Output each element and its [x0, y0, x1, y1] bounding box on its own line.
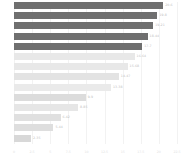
bar-row: 13.38 [0, 83, 185, 93]
bar-value-label: 6.42 [63, 114, 71, 121]
x-axis: 02.557.51012.51517.52022.5 [0, 146, 185, 164]
bar-row: 8.85 [0, 103, 185, 113]
bar[interactable] [14, 43, 142, 50]
bar[interactable] [14, 94, 86, 101]
bar-value-label: 16.64 [137, 53, 147, 60]
bar-row: 18.44 [0, 32, 185, 42]
bar[interactable] [14, 33, 148, 40]
bar-value-label: 19.8 [159, 12, 167, 19]
x-tick-label: 5 [49, 149, 51, 155]
bar-value-label: 18.44 [150, 33, 160, 40]
x-tick-label: 7.5 [66, 149, 71, 155]
x-tick-label: 17.5 [137, 149, 144, 155]
bar-row: 19.21 [0, 21, 185, 31]
bar[interactable] [14, 22, 153, 29]
bar-value-label: 8.85 [80, 104, 88, 111]
bar-row: 16.64 [0, 52, 185, 62]
bar-value-label: 14.47 [121, 73, 131, 80]
x-tick-label: 10 [84, 149, 88, 155]
bar[interactable] [14, 12, 157, 19]
bar[interactable] [14, 114, 61, 121]
x-tick-label: 0 [13, 149, 15, 155]
bar-row: 6.42 [0, 113, 185, 123]
bar-row: 2.35 [0, 134, 185, 144]
bar[interactable] [14, 104, 78, 111]
x-tick-label: 15 [121, 149, 125, 155]
bar[interactable] [14, 84, 111, 91]
bar-row: 19.8 [0, 11, 185, 21]
bar-value-label: 17.7 [144, 43, 152, 50]
x-tick-label: 22.5 [173, 149, 180, 155]
bar[interactable] [14, 135, 31, 142]
bar-row: 9.9 [0, 93, 185, 103]
bar-series: 20.619.819.2118.4417.716.6415.6814.4713.… [0, 0, 185, 146]
bar-value-label: 15.68 [130, 63, 140, 70]
bar-row: 17.7 [0, 42, 185, 52]
bar-value-label: 20.6 [165, 2, 173, 9]
bar-value-label: 5.44 [55, 124, 63, 131]
x-tick-label: 12.5 [101, 149, 108, 155]
bar[interactable] [14, 2, 163, 9]
bar-row: 5.44 [0, 123, 185, 133]
bar[interactable] [14, 63, 128, 70]
bar-value-label: 2.35 [33, 135, 41, 142]
bar-value-label: 13.38 [113, 84, 123, 91]
bar[interactable] [14, 53, 135, 60]
bar-row: 20.6 [0, 1, 185, 11]
bar[interactable] [14, 73, 119, 80]
bar[interactable] [14, 124, 53, 131]
plot-area: 20.619.819.2118.4417.716.6415.6814.4713.… [0, 0, 185, 146]
bar-value-label: 19.21 [155, 22, 165, 29]
bar-row: 15.68 [0, 62, 185, 72]
bar-chart: 20.619.819.2118.4417.716.6415.6814.4713.… [0, 0, 185, 164]
bar-row: 14.47 [0, 72, 185, 82]
bar-value-label: 9.9 [88, 94, 93, 101]
x-tick-label: 20 [157, 149, 161, 155]
x-tick-label: 2.5 [30, 149, 35, 155]
